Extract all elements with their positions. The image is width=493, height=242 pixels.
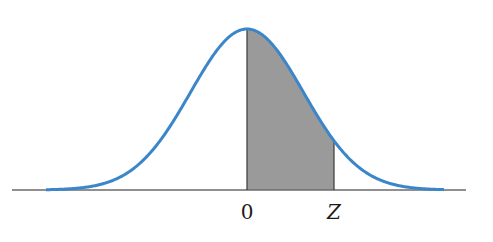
tick-label-z: Z bbox=[327, 200, 341, 224]
shaded-area bbox=[247, 29, 334, 190]
normal-curve bbox=[46, 29, 444, 190]
tick-label-zero: 0 bbox=[241, 200, 254, 224]
